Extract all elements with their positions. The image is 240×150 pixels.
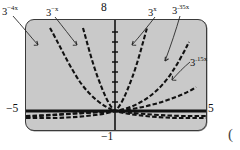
curve-label-3-point35x-exponent: .35x bbox=[177, 3, 189, 10]
curve-label-3-x: 3x bbox=[148, 6, 157, 18]
graph-window bbox=[25, 19, 207, 131]
curve-3-neg4x bbox=[50, 28, 206, 116]
axis-label-xmax: 5 bbox=[208, 103, 214, 115]
axis-label-xmin: −5 bbox=[6, 103, 18, 115]
caption-fragment: ( bbox=[228, 126, 233, 143]
curve-label-3-point15x-exponent: .15x bbox=[195, 55, 207, 62]
curve-3-negx bbox=[83, 28, 206, 118]
curve-label-3-neg4x-exponent: −4x bbox=[7, 4, 18, 11]
curve-label-3-neg4x: 3−4x bbox=[2, 5, 18, 17]
curve-label-3-point15x: 3.15x bbox=[190, 56, 207, 68]
curve-label-3-point35x: 3.35x bbox=[172, 4, 189, 16]
graph-plot bbox=[26, 20, 206, 130]
exponential-functions-figure: 3−4x 3−x 3x 3.35x 3.15x −5 5 8 −1 ( bbox=[0, 0, 240, 150]
curve-label-3-negx-exponent: −x bbox=[51, 5, 58, 12]
axis-label-ymin: −1 bbox=[101, 131, 113, 143]
axis-label-ymax: 8 bbox=[101, 2, 107, 14]
curve-3-point35x bbox=[26, 42, 189, 116]
curve-label-3-negx: 3−x bbox=[46, 6, 58, 18]
curve-label-3-x-exponent: x bbox=[153, 5, 156, 12]
axis-group bbox=[26, 20, 206, 130]
